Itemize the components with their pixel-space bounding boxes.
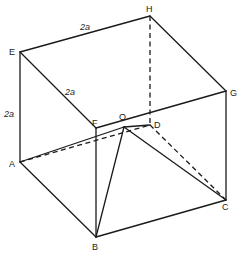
dim-diagonal-edge: 2a (64, 87, 75, 97)
label-C: C (222, 202, 229, 212)
edge-AD (20, 125, 150, 162)
dim-top-edge: 2a (79, 22, 90, 32)
label-H: H (146, 4, 153, 14)
label-E: E (9, 47, 15, 57)
edge-BC (96, 200, 226, 237)
edge-EF (20, 52, 96, 128)
label-O: O (119, 112, 126, 122)
cube-pyramid-diagram: E H G F O D A B C 2a 2a 2a (0, 0, 242, 256)
dim-vertical-edge: 2a (3, 109, 14, 119)
edge-AB (20, 162, 96, 237)
label-G: G (230, 88, 237, 98)
edge-DC (150, 125, 226, 200)
edge-HG (150, 16, 226, 91)
solid-edges (20, 16, 226, 237)
label-B: B (92, 242, 98, 252)
label-A: A (9, 159, 15, 169)
label-F: F (92, 118, 98, 128)
label-D: D (154, 120, 161, 130)
edge-FG (96, 91, 226, 128)
edge-AO-front (20, 127, 124, 162)
edge-OC (124, 127, 226, 200)
edge-OB (96, 127, 124, 237)
